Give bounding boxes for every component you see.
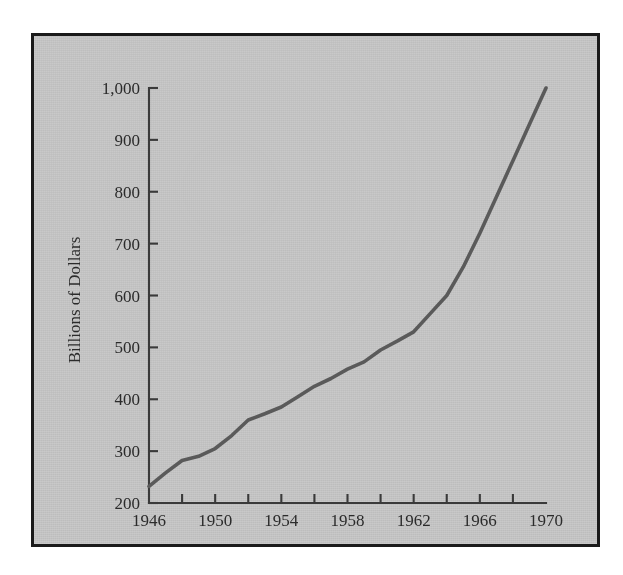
x-axis-ticks xyxy=(182,494,513,503)
y-tick-label: 700 xyxy=(115,235,141,254)
y-tick-label: 500 xyxy=(115,338,141,357)
x-tick-label: 1970 xyxy=(529,511,563,530)
y-tick-label: 900 xyxy=(115,131,141,150)
y-axis-ticks xyxy=(149,88,158,503)
x-tick-label: 1954 xyxy=(264,511,299,530)
x-axis-tick-labels: 1946195019541958196219661970 xyxy=(132,511,563,530)
x-tick-label: 1946 xyxy=(132,511,166,530)
figure-page: 2003004005006007008009001,000 1946195019… xyxy=(0,0,623,575)
y-tick-label: 800 xyxy=(115,183,141,202)
y-axis-tick-labels: 2003004005006007008009001,000 xyxy=(102,79,140,513)
line-chart: 2003004005006007008009001,000 1946195019… xyxy=(0,0,623,575)
y-tick-label: 400 xyxy=(115,390,141,409)
y-tick-label: 600 xyxy=(115,287,141,306)
y-axis-title: Billions of Dollars xyxy=(65,237,84,364)
y-tick-label: 1,000 xyxy=(102,79,140,98)
x-tick-label: 1958 xyxy=(331,511,365,530)
x-tick-label: 1950 xyxy=(198,511,232,530)
x-tick-label: 1966 xyxy=(463,511,497,530)
y-tick-label: 300 xyxy=(115,442,141,461)
x-tick-label: 1962 xyxy=(397,511,431,530)
data-series-line xyxy=(149,88,546,486)
